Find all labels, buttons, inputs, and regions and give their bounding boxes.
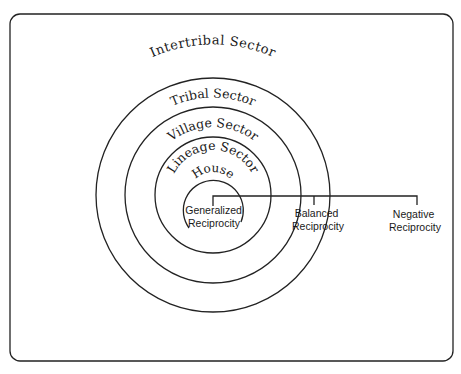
sector-label-tribal: Tribal Sector [168, 85, 258, 108]
reciprocity-sectors-diagram: Intertribal Sector Tribal Sector Village… [0, 0, 461, 374]
reciprocity-label-negative: Negative Reciprocity [389, 208, 442, 233]
sector-label-house: House [189, 161, 237, 182]
reciprocity-label-generalized: Generalized Reciprocity [185, 204, 245, 229]
diagram-frame [10, 14, 453, 361]
sector-label-intertribal: Intertribal Sector [148, 32, 279, 60]
village-circle [125, 107, 301, 283]
reciprocity-label-balanced: Balanced Reciprocity [292, 207, 345, 232]
lineage-circle [155, 137, 271, 253]
tribal-circle [96, 78, 330, 312]
